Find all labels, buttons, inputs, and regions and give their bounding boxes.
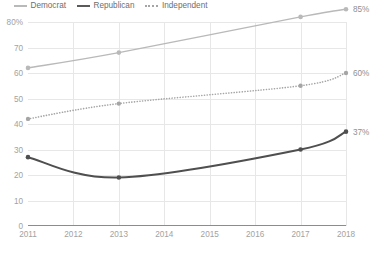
data-point-marker[interactable] [298,147,303,152]
y-axis-tick-label: 70 [14,43,23,52]
data-point-marker[interactable] [298,84,302,88]
legend-item-label: Independent [162,2,208,10]
legend-line-icon [14,5,27,7]
data-point-marker[interactable] [344,7,349,12]
legend-item-independent[interactable]: Independent [145,2,207,10]
gridline-vertical [346,22,347,226]
line-chart: DemocratRepublicanIndependent 0102030405… [0,0,376,257]
x-axis-tick-label: 2016 [246,230,264,239]
data-point-marker[interactable] [26,66,31,71]
x-axis-tick-label: 2014 [155,230,173,239]
y-axis-tick-label: 30 [14,145,23,154]
y-axis-tick-label: 60 [14,69,23,78]
data-point-marker[interactable] [117,175,122,180]
y-axis-tick-label: 50 [14,94,23,103]
legend-item-republican[interactable]: Republican [77,2,134,10]
legend-item-label: Republican [94,2,135,10]
end-label-democrat: 85% [353,5,369,14]
data-point-marker[interactable] [26,155,31,160]
legend-line-icon [145,5,158,7]
series-line [28,73,346,119]
x-axis-tick-label: 2018 [337,230,355,239]
data-point-marker[interactable] [298,15,303,20]
series-republican [26,129,349,180]
series-independent [26,71,348,121]
y-axis-tick-label: 20 [14,171,23,180]
y-axis-tick-label: 10 [14,196,23,205]
legend-item-democrat[interactable]: Democrat [14,2,66,10]
legend-line-icon [77,5,90,7]
plot-area: 01020304050607080% 201120122013201420152… [28,22,346,226]
series-line [28,9,346,68]
data-point-marker[interactable] [344,71,348,75]
end-label-republican: 37% [353,127,369,136]
data-point-marker[interactable] [26,117,30,121]
data-point-marker[interactable] [117,50,122,55]
data-point-marker[interactable] [117,101,121,105]
x-axis-tick-label: 2011 [19,230,37,239]
series-democrat [26,7,349,70]
series-line [28,132,346,178]
legend-item-label: Democrat [31,2,67,10]
end-label-independent: 60% [353,69,369,78]
x-axis-tick-label: 2015 [201,230,219,239]
x-axis-tick-label: 2017 [291,230,309,239]
x-axis-tick-label: 2013 [110,230,128,239]
chart-legend: DemocratRepublicanIndependent [14,2,208,10]
y-axis-tick-label: 40 [14,120,23,129]
x-axis-tick-label: 2012 [64,230,82,239]
data-point-marker[interactable] [344,129,349,134]
series-layer [28,22,346,226]
y-axis-tick-label: 80% [7,18,23,27]
